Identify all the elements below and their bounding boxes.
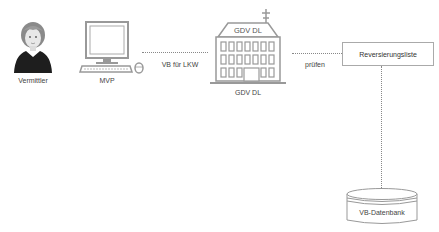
edge-gdv-liste-label: prüfen (298, 61, 332, 68)
person-icon (8, 15, 58, 75)
reversierungsliste-box: Reversierungsliste (342, 42, 434, 66)
edge-liste-db (381, 66, 382, 188)
vermittler-label: Vermittler (8, 77, 58, 84)
datenbank-node: VB-Datenbank (345, 187, 419, 225)
edge-mvp-gdv (142, 52, 208, 53)
edge-gdv-liste (292, 53, 342, 54)
gdv-roof-label: GDV DL (228, 26, 268, 35)
mvp-node: MVP (78, 20, 148, 90)
mvp-label: MVP (78, 77, 136, 84)
gdv-node: GDV DL GDV DL (208, 7, 288, 97)
computer-icon (78, 20, 148, 76)
building-icon (208, 7, 288, 87)
datenbank-label: VB-Datenbank (345, 209, 419, 216)
gdv-label: GDV DL (208, 89, 288, 96)
database-icon (345, 187, 419, 225)
edge-mvp-gdv-label: VB für LKW (150, 61, 210, 68)
reversierungsliste-label: Reversierungsliste (359, 51, 417, 58)
vermittler-node: Vermittler (8, 15, 58, 95)
